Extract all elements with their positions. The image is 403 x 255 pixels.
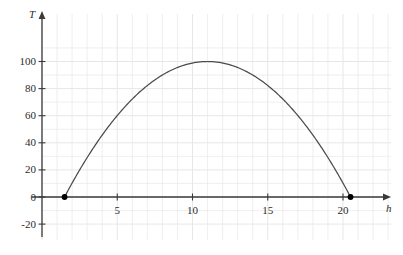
y-tick-label: 80 — [6, 83, 36, 94]
y-axis-label: T — [29, 9, 35, 20]
parabola-plot — [0, 0, 403, 255]
chart-figure: -200204060801005101520 T h — [0, 0, 403, 255]
x-tick-label: 10 — [178, 205, 208, 216]
y-tick-label: 0 — [6, 192, 36, 203]
x-axis-label: h — [386, 203, 392, 214]
y-tick-label: -20 — [6, 219, 36, 230]
y-tick-label: 40 — [6, 137, 36, 148]
x-tick-label: 15 — [253, 205, 283, 216]
x-tick-label: 5 — [102, 205, 132, 216]
x-tick-label: 20 — [328, 205, 358, 216]
y-tick-label: 100 — [6, 56, 36, 67]
y-tick-label: 20 — [6, 164, 36, 175]
y-tick-label: 60 — [6, 110, 36, 121]
